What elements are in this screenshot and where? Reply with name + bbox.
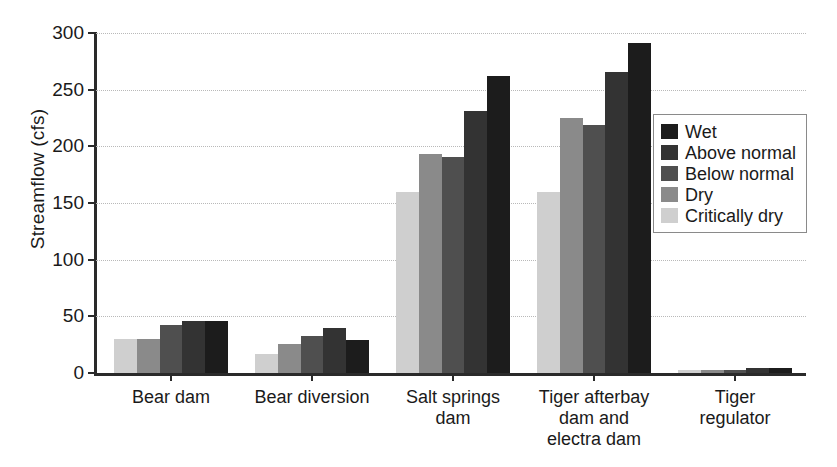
legend: WetAbove normalBelow normalDryCritically… bbox=[653, 114, 807, 233]
y-tick-mark bbox=[88, 315, 96, 317]
bar bbox=[560, 118, 583, 373]
bar bbox=[323, 328, 346, 373]
y-tick-label: 200 bbox=[52, 135, 84, 157]
bar-group bbox=[537, 33, 651, 373]
legend-swatch-icon bbox=[661, 187, 678, 202]
x-tick-label: Bear dam bbox=[132, 387, 210, 408]
bar-group bbox=[396, 33, 510, 373]
x-tick-label: Tiger regulator bbox=[699, 387, 770, 429]
x-tick-label: Bear diversion bbox=[254, 387, 369, 408]
x-axis-line bbox=[94, 373, 806, 376]
legend-item[interactable]: Above normal bbox=[661, 142, 796, 163]
bar bbox=[746, 368, 769, 373]
bar bbox=[396, 192, 419, 373]
bar bbox=[205, 321, 228, 373]
x-tick-label-line: Tiger afterbay bbox=[539, 387, 649, 408]
legend-swatch-icon bbox=[661, 208, 678, 223]
bar bbox=[137, 339, 160, 373]
y-tick-label: 0 bbox=[73, 362, 84, 384]
bar bbox=[769, 368, 792, 373]
bar bbox=[724, 370, 747, 373]
legend-item[interactable]: Wet bbox=[661, 121, 796, 142]
legend-item[interactable]: Below normal bbox=[661, 163, 796, 184]
y-tick-mark bbox=[88, 259, 96, 261]
bar bbox=[301, 336, 324, 373]
bar bbox=[583, 125, 606, 373]
x-tick-label-line: Tiger regulator bbox=[699, 387, 770, 429]
bar bbox=[419, 154, 442, 373]
bar bbox=[255, 354, 278, 373]
bar bbox=[487, 76, 510, 373]
legend-label: Wet bbox=[685, 123, 717, 141]
bar bbox=[605, 72, 628, 373]
x-tick-label-line: electra dam bbox=[539, 429, 649, 450]
x-tick-label-line: Salt springs bbox=[406, 387, 500, 408]
y-tick-label: 300 bbox=[52, 22, 84, 44]
y-tick-mark bbox=[88, 89, 96, 91]
bar-group bbox=[255, 33, 369, 373]
y-tick-mark bbox=[88, 145, 96, 147]
x-tick-label: Salt springsdam bbox=[406, 387, 500, 429]
bar bbox=[628, 43, 651, 373]
bar bbox=[182, 321, 205, 373]
x-tick-mark bbox=[734, 374, 736, 381]
x-tick-mark bbox=[593, 374, 595, 381]
legend-label: Dry bbox=[685, 186, 713, 204]
y-tick-label: 150 bbox=[52, 192, 84, 214]
bar bbox=[278, 344, 301, 373]
bar bbox=[346, 340, 369, 373]
legend-label: Below normal bbox=[685, 165, 794, 183]
x-tick-label-line: dam and bbox=[539, 408, 649, 429]
x-tick-label-line: Bear dam bbox=[132, 387, 210, 408]
bar bbox=[114, 339, 137, 373]
x-tick-mark bbox=[311, 374, 313, 381]
y-tick-label: 250 bbox=[52, 79, 84, 101]
x-tick-mark bbox=[170, 374, 172, 381]
y-tick-label: 50 bbox=[63, 305, 84, 327]
y-tick-mark bbox=[88, 32, 96, 34]
x-tick-label-line: dam bbox=[406, 408, 500, 429]
x-tick-label: Tiger afterbaydam andelectra dam bbox=[539, 387, 649, 451]
y-tick-mark bbox=[88, 202, 96, 204]
legend-item[interactable]: Dry bbox=[661, 184, 796, 205]
y-axis-title: Streamflow (cfs) bbox=[27, 49, 49, 309]
legend-swatch-icon bbox=[661, 145, 678, 160]
bar bbox=[442, 157, 465, 373]
legend-item[interactable]: Critically dry bbox=[661, 205, 796, 226]
legend-swatch-icon bbox=[661, 124, 678, 139]
bar-chart-figure: Streamflow (cfs) 050100150200250300 Bear… bbox=[0, 0, 837, 467]
legend-label: Above normal bbox=[685, 144, 796, 162]
bar bbox=[678, 370, 701, 373]
x-tick-mark bbox=[452, 374, 454, 381]
bar bbox=[701, 370, 724, 373]
bar bbox=[464, 111, 487, 373]
bar bbox=[160, 325, 183, 373]
y-tick-label: 100 bbox=[52, 249, 84, 271]
legend-swatch-icon bbox=[661, 166, 678, 181]
legend-label: Critically dry bbox=[685, 207, 783, 225]
bar bbox=[537, 192, 560, 373]
y-tick-mark bbox=[88, 372, 96, 374]
bar-group bbox=[114, 33, 228, 373]
x-tick-label-line: Bear diversion bbox=[254, 387, 369, 408]
